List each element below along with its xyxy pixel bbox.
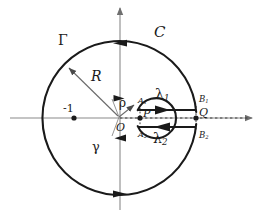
point-minus-one-dot: [71, 115, 76, 120]
lambda1-arrowhead: [155, 105, 170, 114]
diagram-canvas: [0, 0, 267, 214]
label-lambda2-subscript: 2: [162, 137, 168, 147]
label-b2: B2: [199, 131, 209, 140]
label-point-q: Q: [199, 107, 208, 118]
label-b2-subscript: 2: [205, 134, 208, 140]
label-a2: A2: [138, 131, 147, 139]
label-b1-subscript: 1: [205, 98, 208, 104]
axes-group: [10, 8, 252, 210]
label-gamma-lower: γ: [92, 140, 100, 153]
label-lambda1-symbol: λ: [155, 86, 164, 102]
label-a2-subscript: 2: [144, 133, 147, 139]
label-b1: B1: [199, 95, 209, 104]
label-lambda1-subscript: 1: [164, 93, 170, 103]
label-R: R: [91, 69, 102, 83]
contour-diagram-figure: Γ C R ρ O γ -1 P Q λ1 λ2 A1 A2 B1 B2: [0, 0, 267, 214]
label-origin-O: O: [116, 122, 125, 133]
label-point-p: P: [143, 108, 150, 119]
label-lambda2-symbol: λ: [153, 130, 162, 146]
label-C: C: [154, 25, 165, 40]
point-p-dot: [137, 115, 142, 120]
point-q-dot: [193, 115, 198, 120]
outer-contour-C: [42, 40, 196, 198]
label-lambda2: λ2: [153, 131, 167, 147]
label-a1-subscript: 1: [144, 99, 147, 105]
label-a1: A1: [138, 97, 147, 105]
label-gamma-capital: Γ: [58, 33, 68, 47]
label-rho: ρ: [119, 97, 126, 109]
label-lambda1: λ1: [155, 87, 169, 103]
label-minus-one: -1: [63, 103, 74, 114]
